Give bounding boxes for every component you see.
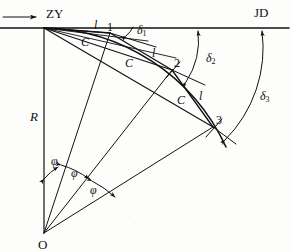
label-radius-r: R bbox=[30, 110, 38, 123]
curve-setting-out-diagram bbox=[0, 0, 291, 252]
label-chord-l-3: l bbox=[199, 90, 202, 102]
label-phi-3: φ bbox=[90, 184, 97, 196]
delta-3-arc bbox=[225, 31, 263, 140]
label-point-1: 1 bbox=[107, 21, 113, 33]
label-delta-1: δ1 bbox=[137, 24, 147, 38]
radius-to-1 bbox=[44, 33, 110, 233]
delta-2-arc bbox=[186, 31, 199, 82]
radius-to-2 bbox=[44, 70, 172, 233]
label-chord-C-3: C bbox=[177, 94, 185, 106]
delta-3-subscript: 3 bbox=[266, 95, 270, 104]
label-delta-3: δ3 bbox=[260, 90, 270, 104]
label-chord-l-2: l bbox=[152, 47, 155, 59]
label-jd: JD bbox=[254, 6, 268, 19]
radius-to-3 bbox=[44, 127, 213, 233]
label-chord-C-1: C bbox=[81, 36, 89, 48]
label-delta-2: δ2 bbox=[206, 52, 216, 66]
tangent-stub-3 bbox=[213, 127, 236, 144]
label-zy: ZY bbox=[46, 7, 63, 20]
figure-canvas: ZY JD O R 1 2 3 l l l C C C δ1 δ2 δ3 φ φ… bbox=[0, 0, 291, 252]
delta-2-subscript: 2 bbox=[212, 57, 216, 66]
label-chord-l-1: l bbox=[94, 19, 97, 31]
label-center-o: O bbox=[38, 238, 47, 251]
label-point-3: 3 bbox=[216, 114, 222, 126]
label-chord-C-2: C bbox=[125, 57, 133, 69]
delta-1-subscript: 1 bbox=[143, 29, 147, 38]
chord-l-2 bbox=[110, 33, 172, 70]
phi-arc-1 bbox=[44, 167, 58, 179]
label-point-2: 2 bbox=[174, 57, 180, 69]
label-phi-2: φ bbox=[71, 167, 78, 179]
label-phi-1: φ bbox=[51, 155, 58, 167]
